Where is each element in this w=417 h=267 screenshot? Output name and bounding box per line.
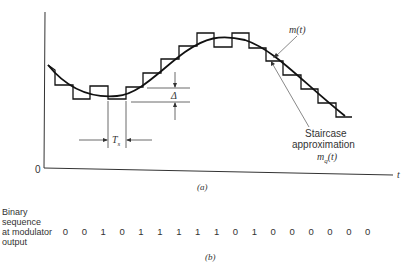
bit: 0 bbox=[226, 226, 245, 237]
time-axis bbox=[44, 168, 393, 175]
staircase-label-line2: approximation bbox=[292, 139, 355, 150]
bit: 0 bbox=[113, 226, 132, 237]
binary-sequence-row-label: Binary sequence at modulator output bbox=[2, 207, 52, 247]
bit: 0 bbox=[283, 226, 302, 237]
ts-arrowhead-left-icon bbox=[126, 138, 131, 142]
delta-arrowhead-down-icon bbox=[173, 83, 177, 88]
ts-arrowhead-right-icon bbox=[103, 138, 108, 142]
delta-arrowhead-up-icon bbox=[173, 102, 177, 107]
bit: 1 bbox=[207, 226, 226, 237]
bit: 1 bbox=[150, 226, 169, 237]
staircase-leader-line bbox=[272, 63, 309, 127]
origin-label: 0 bbox=[35, 164, 41, 175]
bit: 0 bbox=[56, 226, 75, 237]
binary-sequence: 0 0 1 0 1 1 1 1 1 0 1 0 0 0 0 0 0 bbox=[56, 226, 377, 237]
signal-leader-line bbox=[275, 36, 297, 57]
vertical-axis bbox=[44, 12, 45, 168]
sample-period-label: Ts bbox=[112, 134, 120, 150]
bit: 1 bbox=[94, 226, 113, 237]
bit: 0 bbox=[264, 226, 283, 237]
bit: 0 bbox=[358, 226, 377, 237]
staircase-approximation bbox=[48, 33, 352, 117]
bit: 0 bbox=[320, 226, 339, 237]
bit: 1 bbox=[169, 226, 188, 237]
caption-a: (a) bbox=[197, 182, 208, 193]
staircase-symbol: mq(t) bbox=[317, 151, 337, 167]
signal-label: m(t) bbox=[289, 24, 306, 35]
delta-label: Δ bbox=[171, 90, 177, 101]
bit: 0 bbox=[339, 226, 358, 237]
bit: 1 bbox=[188, 226, 207, 237]
bit: 0 bbox=[75, 226, 94, 237]
staircase-label-line1: Staircase bbox=[305, 128, 347, 139]
bit: 0 bbox=[302, 226, 321, 237]
bit: 1 bbox=[132, 226, 151, 237]
bit: 1 bbox=[245, 226, 264, 237]
caption-b: (b) bbox=[205, 252, 216, 263]
time-axis-label: t bbox=[397, 169, 400, 180]
